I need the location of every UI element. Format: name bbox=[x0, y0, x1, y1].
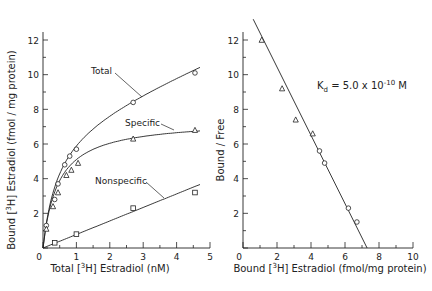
triangle-marker bbox=[55, 190, 60, 195]
x-tick-label: 5 bbox=[207, 252, 213, 262]
circle-marker bbox=[74, 147, 79, 152]
square-marker bbox=[52, 241, 57, 246]
circle-marker bbox=[131, 100, 136, 105]
specific-curve bbox=[43, 131, 200, 248]
x-tick-label: 8 bbox=[376, 252, 382, 262]
square-marker bbox=[74, 232, 79, 237]
y-tick-label: 10 bbox=[28, 70, 40, 80]
figure: 24681012012345 246810120246810 Total [3H… bbox=[0, 0, 432, 291]
y-tick-label: 12 bbox=[28, 36, 39, 46]
circle-marker bbox=[355, 220, 360, 225]
x-tick-label: 2 bbox=[274, 252, 280, 262]
x-tick-label: 4 bbox=[308, 252, 314, 262]
circle-marker bbox=[52, 197, 57, 202]
x-tick-label: 0 bbox=[36, 252, 42, 262]
triangle-marker bbox=[75, 160, 80, 165]
x-tick-label: 1 bbox=[74, 252, 80, 262]
x-tick-label: 3 bbox=[140, 252, 146, 262]
circle-marker bbox=[67, 154, 72, 159]
triangle-marker bbox=[192, 127, 197, 132]
circle-marker bbox=[193, 71, 198, 76]
label-specific: Specific bbox=[125, 118, 160, 128]
y-tick-label: 12 bbox=[228, 36, 239, 46]
triangle-marker bbox=[69, 167, 74, 172]
square-marker bbox=[193, 190, 198, 195]
total-curve bbox=[43, 67, 200, 248]
y-tick-label: 8 bbox=[33, 105, 39, 115]
y-tick-label: 2 bbox=[33, 209, 39, 219]
label-nonspecific: Nonspecific bbox=[95, 176, 147, 186]
nonspecific-curve bbox=[43, 185, 200, 249]
triangle-marker bbox=[280, 86, 285, 91]
y-tick-label: 8 bbox=[233, 105, 239, 115]
right-chart: 246810120246810 bbox=[228, 19, 419, 262]
left-y-axis-label: Bound [3H] Estradiol (fmol / mg protein) bbox=[5, 50, 17, 250]
right-x-axis-label: Bound [3H] Estradiol (fmol/mg protein) bbox=[233, 262, 426, 274]
triangle-marker bbox=[310, 131, 315, 136]
x-tick-label: 6 bbox=[342, 252, 348, 262]
y-tick-label: 6 bbox=[33, 140, 39, 150]
square-marker bbox=[131, 206, 136, 211]
x-tick-label: 2 bbox=[107, 252, 113, 262]
circle-marker bbox=[56, 182, 61, 187]
kd-annotation: Kd = 5.0 x 10-10 M bbox=[317, 79, 407, 94]
circle-marker bbox=[322, 161, 327, 166]
scatchard-fit-line bbox=[253, 19, 367, 248]
x-tick-label: 10 bbox=[407, 252, 419, 262]
y-tick-label: 2 bbox=[233, 209, 239, 219]
x-tick-label: 0 bbox=[236, 252, 242, 262]
left-x-axis-label: Total [3H] Estradiol (nM) bbox=[49, 262, 169, 274]
y-tick-label: 4 bbox=[233, 174, 239, 184]
y-tick-label: 4 bbox=[33, 174, 39, 184]
label-total: Total bbox=[90, 66, 112, 76]
x-tick-label: 4 bbox=[174, 252, 180, 262]
triangle-marker bbox=[50, 204, 55, 209]
circle-marker bbox=[346, 206, 351, 211]
circle-marker bbox=[62, 163, 67, 168]
left-chart: 24681012012345 bbox=[28, 32, 213, 262]
triangle-marker bbox=[293, 117, 298, 122]
right-y-axis-label: Bound / Free bbox=[215, 119, 226, 182]
y-tick-label: 6 bbox=[233, 140, 239, 150]
circle-marker bbox=[317, 149, 322, 154]
y-tick-label: 10 bbox=[228, 70, 240, 80]
